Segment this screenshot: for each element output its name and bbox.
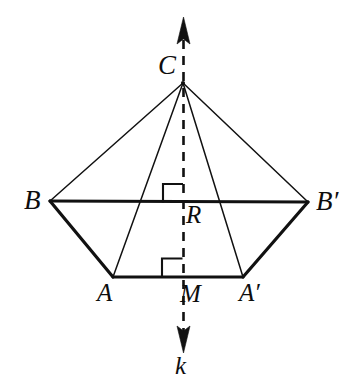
label-axis-k: k: [175, 353, 186, 378]
label-point-C: C: [158, 52, 176, 79]
right-angle-at-R-icon: [163, 184, 183, 203]
label-point-M: M: [180, 281, 201, 306]
right-angle-at-M-icon: [162, 259, 183, 278]
base-edges: [50, 201, 308, 277]
label-point-A: A: [97, 280, 112, 305]
label-point-R: R: [186, 202, 201, 227]
right-angle-marks: [162, 184, 183, 278]
segment-B-Bprime: [50, 201, 308, 202]
segment-Aprime-Bprime: [243, 202, 308, 277]
vertex-dot-C: [181, 81, 185, 85]
label-point-B: B: [24, 187, 41, 214]
geometry-canvas: [0, 0, 355, 391]
label-point-B-prime: B′: [316, 188, 338, 215]
segment-C-A: [113, 83, 183, 277]
segment-B-A: [50, 201, 113, 277]
label-point-A-prime: A′: [239, 280, 260, 305]
axis-arrow-up-icon: [177, 17, 190, 44]
geometry-figure: C B B′ R A M A′ k: [0, 0, 355, 391]
vertex-markers: [181, 81, 185, 85]
